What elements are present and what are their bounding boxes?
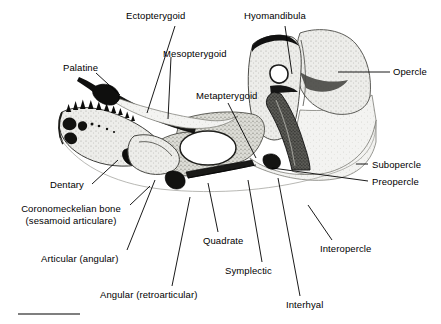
label-subopercle: Subopercle [372, 159, 421, 170]
label-coronomeckelian-line2: (sesamoid articulare) [26, 215, 117, 226]
leader-coronomeckelian [130, 186, 150, 205]
label-ectopterygoid: Ectopterygoid [126, 10, 185, 21]
hyomandibula-socket [270, 65, 288, 83]
label-interhyal: Interhyal [286, 299, 323, 310]
label-preopercle: Preopercle [372, 176, 419, 187]
leader-interopercle [308, 205, 332, 240]
leader-mesopterygoid [168, 57, 171, 119]
label-metapterygoid: Metapterygoid [196, 90, 258, 101]
leader-quadrate [208, 183, 218, 232]
quadrate-foramen [180, 131, 236, 165]
label-quadrate: Quadrate [203, 235, 243, 246]
label-palatine: Palatine [63, 62, 98, 73]
leader-symplectic [248, 180, 262, 262]
label-coronomeckelian-line1: Coronomeckelian bone [21, 203, 121, 214]
bone-palatine [93, 84, 120, 105]
label-opercle: Opercle [393, 66, 427, 77]
anatomical-figure: Ectopterygoid Mesopterygoid Hyomandibula… [0, 0, 441, 324]
label-coronomeckelian-bone: Coronomeckelian bone (sesamoid articular… [10, 203, 132, 226]
palatine-anterior-process [77, 77, 96, 92]
label-dentary: Dentary [50, 179, 84, 190]
label-interopercle: Interopercle [320, 243, 371, 254]
leader-interhyal [278, 178, 300, 296]
label-articular: Articular (angular) [41, 253, 118, 264]
label-mesopterygoid: Mesopterygoid [163, 48, 227, 59]
leader-angular [172, 197, 190, 286]
label-hyomandibula: Hyomandibula [244, 10, 306, 21]
label-angular: Angular (retroarticular) [100, 289, 197, 300]
label-symplectic: Symplectic [225, 265, 272, 276]
